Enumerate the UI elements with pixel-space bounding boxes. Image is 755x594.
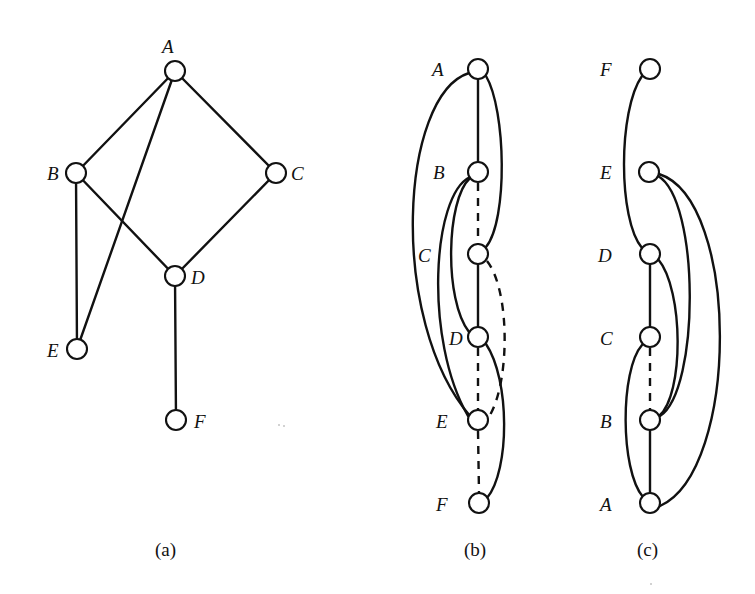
edge-a-D-F	[175, 276, 176, 420]
node-a-C	[266, 163, 286, 183]
scan-speck	[650, 583, 652, 585]
edge-c-E-A	[659, 174, 720, 506]
label-b-D: D	[448, 328, 463, 349]
label-b-A: A	[430, 59, 444, 80]
edge-a-A-B	[76, 71, 175, 173]
panel-b: A B C D E F (b)	[413, 59, 505, 561]
node-b-A	[468, 59, 488, 79]
panel-a: A B C D E F (a)	[46, 36, 304, 561]
caption-b: (b)	[464, 539, 486, 561]
scan-speck	[278, 424, 280, 426]
graph-figure: A B C D E F (a) A B C D E F (b)	[0, 0, 755, 594]
node-c-A	[640, 493, 660, 513]
label-c-E: E	[599, 162, 612, 183]
edge-b-E-F	[478, 431, 479, 493]
label-a-A: A	[160, 36, 174, 57]
node-c-C	[640, 327, 660, 347]
edge-b-A-C	[486, 76, 502, 247]
label-c-F: F	[599, 59, 612, 80]
label-a-B: B	[47, 163, 59, 184]
node-a-E	[67, 339, 87, 359]
label-c-A: A	[598, 494, 612, 515]
label-b-B: B	[433, 162, 445, 183]
edge-c-F-D	[624, 76, 642, 248]
edge-a-B-E	[76, 173, 77, 349]
node-b-E	[468, 410, 488, 430]
label-a-C: C	[291, 163, 304, 184]
panel-c: F E D C B A (c)	[597, 59, 720, 561]
node-c-D	[640, 244, 660, 264]
node-b-B	[468, 162, 488, 182]
edge-a-C-D	[175, 173, 276, 276]
label-b-C: C	[418, 245, 431, 266]
node-b-D	[468, 327, 488, 347]
node-b-F	[469, 493, 489, 513]
node-a-F	[166, 410, 186, 430]
label-b-F: F	[435, 494, 448, 515]
edge-a-B-D	[76, 173, 175, 276]
node-c-B	[640, 410, 660, 430]
node-c-E	[639, 162, 659, 182]
label-a-F: F	[193, 411, 206, 432]
caption-c: (c)	[637, 539, 658, 561]
node-a-A	[165, 61, 185, 81]
label-b-E: E	[435, 411, 448, 432]
node-b-C	[468, 244, 488, 264]
edge-a-A-C	[175, 71, 276, 173]
edge-a-A-E	[77, 71, 175, 349]
label-c-B: B	[600, 411, 612, 432]
node-a-D	[165, 266, 185, 286]
label-c-D: D	[597, 245, 612, 266]
node-c-F	[640, 59, 660, 79]
node-a-B	[66, 163, 86, 183]
caption-a: (a)	[155, 539, 176, 561]
label-a-D: D	[190, 267, 205, 288]
label-a-E: E	[46, 340, 59, 361]
label-c-C: C	[600, 328, 613, 349]
scan-speck	[283, 425, 285, 427]
